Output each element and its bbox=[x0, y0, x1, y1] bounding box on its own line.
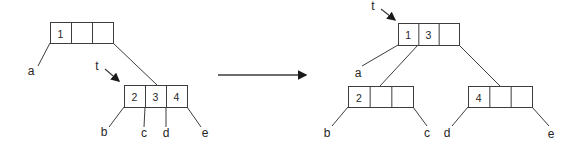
edge-line bbox=[362, 45, 398, 66]
cell-value: 2 bbox=[356, 92, 362, 104]
cell-value: 1 bbox=[405, 29, 411, 41]
cell-value: 2 bbox=[132, 91, 138, 103]
leaf-node-4: 4 bbox=[469, 87, 533, 108]
edge-line bbox=[452, 107, 468, 126]
edge-line bbox=[413, 107, 427, 126]
cell-value: 3 bbox=[426, 29, 432, 41]
root-node-before: 1 bbox=[51, 23, 114, 44]
cell-value: 3 bbox=[153, 91, 159, 103]
btree-split-figure: 1234abcdet1324abcdet bbox=[0, 0, 583, 150]
edge-line bbox=[38, 43, 50, 66]
leaf-label-b: b bbox=[324, 126, 331, 140]
diagram-after: 1324abcdet bbox=[324, 0, 555, 141]
leaf-label-a: a bbox=[355, 66, 362, 80]
pointer-arrow-icon bbox=[381, 9, 395, 20]
leaf-label-e: e bbox=[202, 126, 209, 140]
cell-value: 4 bbox=[476, 92, 482, 104]
edge-line bbox=[380, 45, 418, 86]
leaf-label-c: c bbox=[424, 126, 430, 140]
diagram-before: 1234abcdet bbox=[28, 23, 209, 141]
edge-line bbox=[109, 107, 124, 127]
edge-line bbox=[187, 107, 201, 127]
diagram-svg: 1234abcdet1324abcdet bbox=[0, 0, 583, 150]
edge-line bbox=[113, 43, 157, 85]
root-node-after: 13 bbox=[399, 24, 460, 46]
edge-line bbox=[332, 107, 348, 126]
edge-line bbox=[144, 107, 145, 127]
pointer-label-t: t bbox=[371, 0, 375, 13]
leaf-label-c: c bbox=[141, 126, 147, 140]
pointer-label-t: t bbox=[95, 59, 99, 73]
leaf-label-b: b bbox=[101, 125, 108, 139]
leaf-node-2: 2 bbox=[349, 87, 414, 108]
leaf-label-a: a bbox=[28, 64, 35, 78]
edge-line bbox=[459, 45, 500, 86]
cell-value: 1 bbox=[58, 28, 64, 40]
edge-line bbox=[532, 107, 549, 126]
leaf-label-d: d bbox=[444, 126, 451, 140]
leaf-label-e: e bbox=[548, 127, 555, 141]
cell-value: 4 bbox=[174, 91, 180, 103]
pointer-arrow-icon bbox=[105, 69, 119, 81]
leaf-node-234: 234 bbox=[125, 86, 188, 108]
leaf-label-d: d bbox=[163, 126, 170, 140]
